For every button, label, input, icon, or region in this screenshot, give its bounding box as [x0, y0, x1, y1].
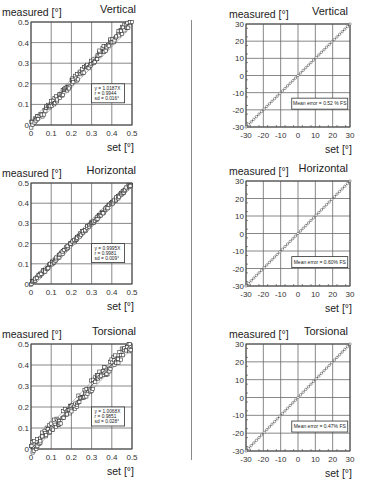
- svg-text:Mean error = 0.47% FS: Mean error = 0.47% FS: [294, 423, 347, 429]
- x-axis-label: set [°]: [325, 467, 352, 479]
- y-axis-label: measured [°]: [229, 328, 289, 340]
- svg-text:20: 20: [328, 455, 337, 464]
- svg-text:-30: -30: [240, 455, 252, 464]
- svg-text:-10: -10: [275, 455, 287, 464]
- svg-text:10: 10: [311, 455, 320, 464]
- svg-text:30: 30: [235, 340, 244, 349]
- chart-title: Torsional: [304, 325, 348, 337]
- chart-right-torsional: -30-20-100102030-30-20-100102030measured…: [0, 0, 373, 490]
- svg-text:20: 20: [235, 358, 244, 367]
- svg-text:-30: -30: [232, 447, 244, 456]
- svg-text:0: 0: [240, 394, 245, 403]
- svg-text:-20: -20: [258, 455, 270, 464]
- svg-text:0: 0: [296, 455, 301, 464]
- svg-text:30: 30: [346, 455, 355, 464]
- stats-annotation: Mean error = 0.47% FS: [292, 421, 348, 432]
- svg-text:10: 10: [235, 376, 244, 385]
- svg-text:-10: -10: [232, 411, 244, 420]
- svg-text:-20: -20: [232, 429, 244, 438]
